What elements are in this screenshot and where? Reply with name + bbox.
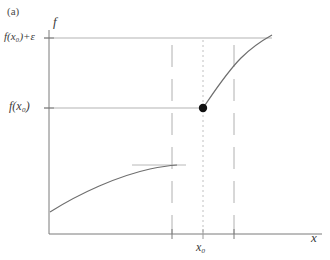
y-axis-label: f xyxy=(53,15,57,28)
function-value-tick-label: f(x₀) xyxy=(9,100,30,112)
curve-right-branch xyxy=(203,35,272,108)
x-axis-label: x xyxy=(311,231,317,244)
figure-canvas xyxy=(0,0,330,260)
figure-panel-a: (a) f x f(x₀)+ε f(x₀) x₀ xyxy=(0,0,330,260)
x0-tick-label: x₀ xyxy=(196,241,206,253)
panel-label: (a) xyxy=(7,6,19,17)
curve-left-branch xyxy=(50,165,177,212)
closed-point-marker xyxy=(199,104,207,112)
upper-bound-tick-label: f(x₀)+ε xyxy=(4,31,35,42)
